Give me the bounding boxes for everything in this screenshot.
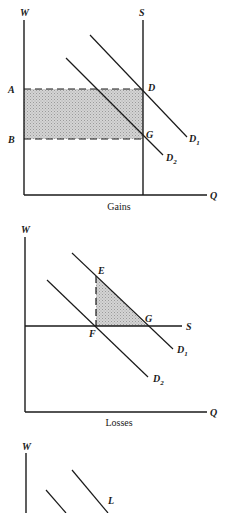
b-label: B: [7, 134, 15, 145]
d-point-label: D: [147, 82, 155, 93]
shaded-gain-area: [24, 89, 143, 139]
caption-gains: Gains: [107, 201, 130, 212]
a-label: A: [7, 84, 15, 95]
w-axis-label: W: [20, 7, 30, 18]
f-point-label: F: [88, 328, 96, 339]
d2-label: D2: [165, 152, 177, 166]
g-point-label: G: [146, 129, 154, 140]
d1-label: D1: [176, 344, 188, 358]
d2-label: D2: [152, 373, 164, 387]
q-axis-label: Q: [210, 407, 217, 418]
e-point-label: E: [97, 265, 105, 276]
q-axis-label: Q: [210, 190, 217, 201]
w-axis-label: W: [22, 441, 32, 452]
chart-partial: W L: [22, 441, 114, 513]
d1-label: D1: [188, 133, 200, 147]
s-label: S: [186, 321, 192, 332]
figure: W S Q A B D G D1 D2 Gains W S Q E F G D1…: [0, 0, 226, 513]
demand-curve-d1: [72, 253, 173, 349]
curve-l: [72, 470, 108, 513]
g-point-label: G: [145, 313, 153, 324]
chart-gains: W S Q A B D G D1 D2 Gains: [7, 7, 217, 212]
w-axis-label: W: [21, 224, 31, 235]
l-label: L: [107, 495, 114, 506]
s-label: S: [139, 7, 145, 18]
caption-losses: Losses: [105, 417, 132, 428]
chart-losses: W S Q E F G D1 D2 Losses: [21, 224, 217, 428]
curve-second: [46, 490, 66, 513]
